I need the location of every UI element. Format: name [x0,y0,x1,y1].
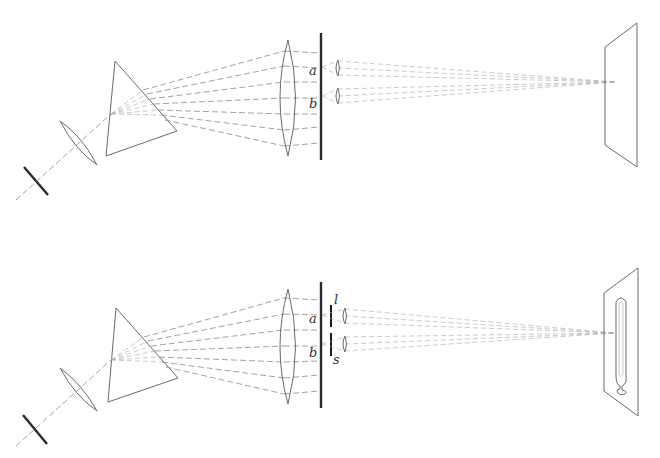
optics-diagram: a b [0,0,660,458]
prism-top [106,61,177,156]
projected-rays-top [322,61,615,103]
label-l: l [334,292,338,307]
projection-screen-bottom [604,268,638,416]
incoming-beam-bottom [16,360,111,446]
label-b-bottom: b [309,345,317,360]
dispersion-fan-bottom [111,337,162,362]
projection-screen-top [605,23,637,167]
label-a-top: a [309,63,317,78]
spectrum-rays-bottom [144,298,320,394]
label-b-top: b [309,96,317,111]
label-s: s [333,352,340,367]
label-a-bottom: a [309,311,317,326]
dispersion-fan-top [111,90,161,115]
top-panel: a b [16,23,637,200]
slit-top [24,167,48,195]
bottom-panel: a b l s [16,268,638,446]
objective-lens-bottom [280,289,296,404]
projected-rays-bottom [322,309,615,351]
thermometer-icon [616,298,626,395]
slit-bottom [23,415,47,444]
